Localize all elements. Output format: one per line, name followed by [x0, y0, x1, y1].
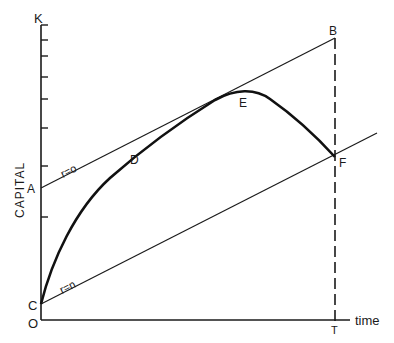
- label-a: A: [27, 182, 35, 196]
- label-f: F: [339, 156, 346, 170]
- label-o: O: [28, 316, 38, 331]
- label-b: B: [329, 24, 337, 38]
- capital-time-diagram: K B A C O D E F T time r=o r=n CAPITAL: [0, 0, 394, 343]
- y-axis-ticks: [41, 25, 48, 217]
- label-k: K: [34, 11, 43, 26]
- label-r-zero: r=o: [58, 162, 78, 180]
- label-e: E: [239, 96, 247, 110]
- label-c: C: [28, 298, 37, 313]
- label-t: T: [331, 324, 338, 336]
- capital-path-curve: [41, 91, 335, 304]
- y-axis-title: CAPITAL: [13, 162, 27, 218]
- x-axis-title: time: [355, 313, 380, 328]
- line-r-n: [41, 133, 377, 304]
- label-d: D: [130, 153, 139, 167]
- label-r-n: r=n: [57, 278, 77, 296]
- line-r-zero: [41, 38, 335, 188]
